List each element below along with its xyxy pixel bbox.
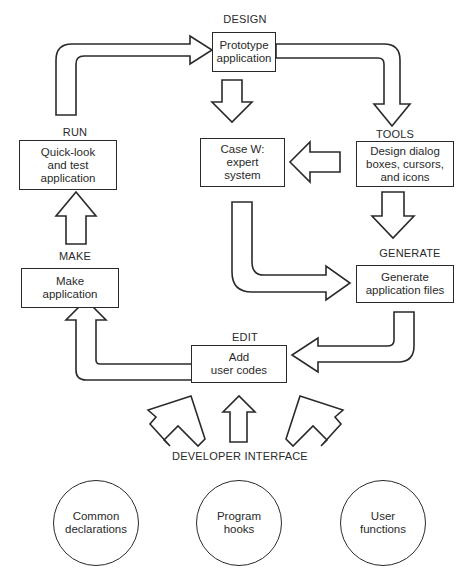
run-box: Quick-look and test application: [19, 140, 117, 190]
common-declarations-text: Common declarations: [65, 510, 127, 536]
arrow-tools-to-generate: [372, 192, 414, 238]
edit-box: Add user codes: [191, 345, 287, 383]
arrow-make-to-run: [56, 192, 96, 244]
casew-box: Case W: expert system: [200, 138, 285, 187]
make-box: Make application: [21, 268, 119, 308]
design-text: Prototype application: [217, 39, 272, 65]
arrow-dev-center: [223, 396, 255, 442]
tools-box: Design dialog boxes, cursors, and icons: [356, 141, 454, 187]
arrow-run-to-design: [56, 36, 212, 115]
edit-text: Add user codes: [211, 351, 267, 377]
generate-heading: GENERATE: [365, 247, 455, 259]
arrow-tools-to-casew: [290, 142, 340, 182]
program-hooks-circle: Program hooks: [196, 480, 282, 566]
user-functions-text: User functions: [360, 510, 406, 536]
arrow-generate-to-edit: [292, 312, 414, 372]
arrow-design-to-tools: [276, 44, 410, 126]
run-heading: RUN: [40, 126, 110, 138]
make-heading: MAKE: [40, 250, 110, 262]
arrow-dev-left: [148, 396, 205, 446]
developer-interface-heading: DEVELOPER INTERFACE: [160, 450, 320, 462]
design-box: Prototype application: [212, 32, 276, 72]
generate-text: Generate application files: [366, 271, 445, 297]
generate-box: Generate application files: [356, 265, 454, 303]
tools-text: Design dialog boxes, cursors, and icons: [366, 145, 444, 184]
tools-heading: TOOLS: [360, 128, 430, 140]
arrow-casew-to-generate: [232, 202, 350, 300]
design-heading: DESIGN: [210, 13, 280, 25]
casew-text: Case W: expert system: [221, 143, 265, 182]
arrow-dev-right: [286, 396, 343, 446]
program-hooks-text: Program hooks: [217, 510, 261, 536]
common-declarations-circle: Common declarations: [53, 480, 139, 566]
user-functions-circle: User functions: [340, 480, 426, 566]
arrow-design-to-casew: [212, 80, 252, 122]
run-text: Quick-look and test application: [41, 146, 96, 185]
make-text: Make application: [43, 275, 98, 301]
edit-heading: EDIT: [210, 331, 280, 343]
